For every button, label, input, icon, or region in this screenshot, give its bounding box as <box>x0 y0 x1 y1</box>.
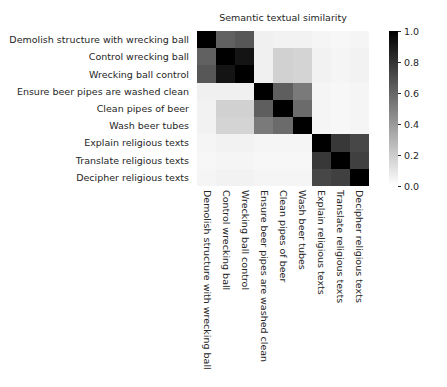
heatmap-cell <box>350 152 369 169</box>
x-axis-tick-label: Wash beer tubes <box>293 186 312 326</box>
colorbar-tick: 0.2 <box>398 150 419 160</box>
heatmap-cell <box>254 65 273 82</box>
x-axis-tick-label: Ensure beer pipes are washed clean <box>254 186 273 326</box>
heatmap-cell <box>312 65 331 82</box>
heatmap-cell <box>254 134 273 151</box>
x-axis-tick-label: Control wrecking ball <box>216 186 235 326</box>
colorbar-tick: 0.6 <box>398 88 419 98</box>
heatmap-cell <box>197 117 216 134</box>
colorbar-tick-text: 0.6 <box>404 88 419 99</box>
heatmap-cell <box>293 48 312 65</box>
colorbar-tick-mark <box>398 93 401 94</box>
heatmap-grid <box>197 31 369 186</box>
heatmap-cell <box>350 65 369 82</box>
heatmap-cell <box>331 100 350 117</box>
heatmap-cell <box>331 48 350 65</box>
heatmap-cell <box>235 65 254 82</box>
heatmap-cell <box>273 83 292 100</box>
heatmap-cell <box>216 152 235 169</box>
heatmap-cell <box>254 117 273 134</box>
heatmap-cell <box>216 100 235 117</box>
heatmap-cell <box>216 65 235 82</box>
heatmap-cell <box>254 83 273 100</box>
colorbar-tick: 0.8 <box>398 57 419 67</box>
heatmap-cell <box>273 48 292 65</box>
heatmap-cell <box>235 169 254 186</box>
heatmap-cell <box>235 100 254 117</box>
heatmap-cell <box>312 152 331 169</box>
heatmap-cell <box>331 31 350 48</box>
x-axis-tick-label: Decipher religious texts <box>350 186 369 326</box>
heatmap-cell <box>235 48 254 65</box>
colorbar-tick-labels: 1.00.80.60.40.20.0 <box>398 31 444 186</box>
heatmap-cell <box>197 169 216 186</box>
x-axis-tick-labels: Demolish structure with wrecking ballCon… <box>197 186 369 326</box>
heatmap-cell <box>331 152 350 169</box>
heatmap-cell <box>312 48 331 65</box>
heatmap-cell <box>254 100 273 117</box>
heatmap-cell <box>331 83 350 100</box>
heatmap-cell <box>350 100 369 117</box>
heatmap-cell <box>197 83 216 100</box>
heatmap-cell <box>293 134 312 151</box>
chart-title: Semantic textual similarity <box>197 12 369 23</box>
heatmap-cell <box>331 117 350 134</box>
heatmap-cell <box>331 169 350 186</box>
heatmap-cell <box>293 100 312 117</box>
heatmap-cell <box>235 83 254 100</box>
heatmap-cell <box>273 65 292 82</box>
heatmap-cell <box>216 117 235 134</box>
heatmap-cell <box>216 134 235 151</box>
x-axis-tick-label: Translate religious texts <box>331 186 350 326</box>
colorbar-tick-mark <box>398 155 401 156</box>
colorbar-gradient <box>389 31 398 186</box>
heatmap-cell <box>197 134 216 151</box>
heatmap-cell <box>293 83 312 100</box>
colorbar-tick: 1.0 <box>398 26 419 36</box>
colorbar-tick: 0.4 <box>398 119 419 129</box>
y-axis-tick-label: Demolish structure with wrecking ball <box>0 31 193 48</box>
colorbar-tick-text: 1.0 <box>404 26 419 37</box>
heatmap-cell <box>273 152 292 169</box>
y-axis-tick-label: Decipher religious texts <box>0 169 193 186</box>
heatmap-cell <box>235 134 254 151</box>
heatmap-cell <box>312 134 331 151</box>
heatmap-cell <box>254 169 273 186</box>
heatmap-cell <box>254 152 273 169</box>
heatmap-cell <box>350 134 369 151</box>
heatmap-cell <box>197 100 216 117</box>
heatmap-cell <box>273 117 292 134</box>
heatmap-cell <box>197 48 216 65</box>
heatmap-cell <box>273 169 292 186</box>
heatmap-cell <box>350 117 369 134</box>
y-axis-tick-label: Wash beer tubes <box>0 117 193 134</box>
heatmap-cell <box>293 152 312 169</box>
heatmap-cell <box>312 83 331 100</box>
colorbar-tick-mark <box>398 186 401 187</box>
y-axis-tick-label: Control wrecking ball <box>0 48 193 65</box>
x-axis-tick-label: Explain religious texts <box>312 186 331 326</box>
colorbar-tick-text: 0.2 <box>404 150 419 161</box>
y-axis-tick-label: Wrecking ball control <box>0 65 193 82</box>
colorbar-tick-text: 0.0 <box>404 181 419 192</box>
figure: Semantic textual similarity Demolish str… <box>0 0 447 387</box>
heatmap-cell <box>331 134 350 151</box>
y-axis-tick-label: Explain religious texts <box>0 134 193 151</box>
heatmap-cell <box>293 31 312 48</box>
heatmap-cell <box>254 31 273 48</box>
heatmap-cell <box>197 65 216 82</box>
colorbar-tick-mark <box>398 62 401 63</box>
colorbar-tick: 0.0 <box>398 181 419 191</box>
heatmap-cell <box>235 31 254 48</box>
y-axis-tick-labels: Demolish structure with wrecking ballCon… <box>0 31 193 186</box>
heatmap-cell <box>197 31 216 48</box>
heatmap-cell <box>273 134 292 151</box>
heatmap-cell <box>273 100 292 117</box>
heatmap-cell <box>350 48 369 65</box>
colorbar-tick-mark <box>398 31 401 32</box>
heatmap-cell <box>312 100 331 117</box>
x-axis-tick-label: Clean pipes of beer <box>273 186 292 326</box>
heatmap-cell <box>216 83 235 100</box>
heatmap-cell <box>254 48 273 65</box>
y-axis-tick-label: Clean pipes of beer <box>0 100 193 117</box>
